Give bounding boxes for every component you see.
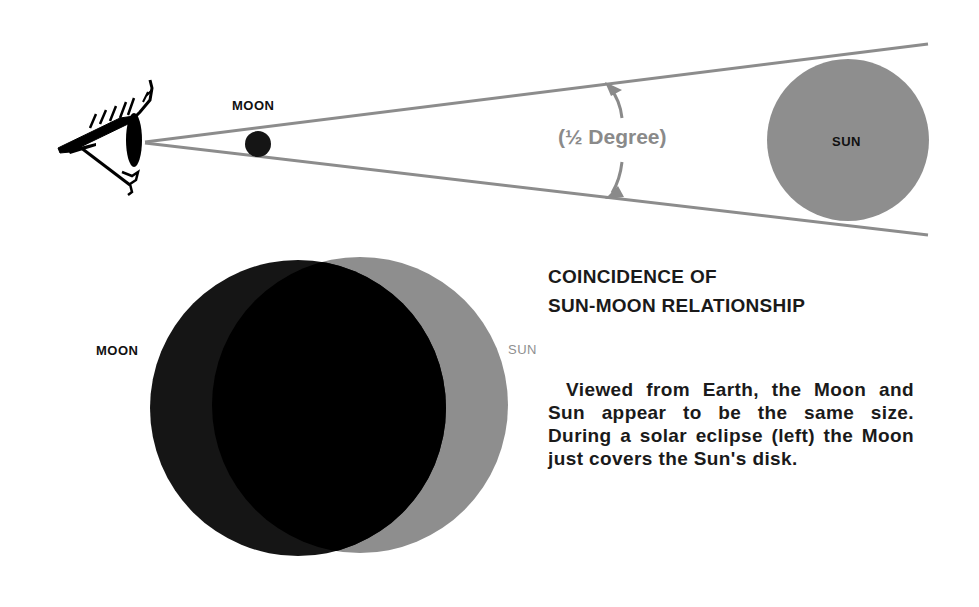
angle-label: (½ Degree) <box>558 125 667 149</box>
eclipse-moon-label: MOON <box>96 343 138 358</box>
eclipse-illustration <box>150 257 508 556</box>
diagram-canvas <box>0 0 979 607</box>
sun-label-top: SUN <box>832 134 861 149</box>
moon-small <box>245 131 271 157</box>
moon-label-top: MOON <box>232 98 274 113</box>
caption-title-line1: COINCIDENCE OF <box>548 262 805 291</box>
caption-body: Viewed from Earth, the Moon and Sun appe… <box>548 378 914 470</box>
caption-title-line2: SUN-MOON RELATIONSHIP <box>548 291 805 320</box>
eye-icon <box>58 80 152 195</box>
caption-title: COINCIDENCE OF SUN-MOON RELATIONSHIP <box>548 262 805 320</box>
eclipse-sun-label: SUN <box>508 342 537 357</box>
